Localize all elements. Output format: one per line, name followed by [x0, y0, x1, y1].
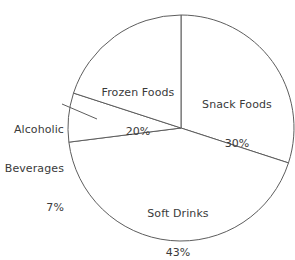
pie-label-soft-drinks-name: Soft Drinks — [137, 207, 219, 220]
pie-label-frozen-foods-name: Frozen Foods — [98, 86, 178, 99]
pie-label-frozen-foods: Frozen Foods 20% — [98, 60, 178, 164]
pie-label-soft-drinks-value: 43% — [137, 246, 219, 259]
pie-label-snack-foods: Snack Foods 30% — [196, 72, 278, 176]
pie-label-snack-foods-value: 30% — [196, 137, 278, 150]
pie-label-snack-foods-name: Snack Foods — [196, 98, 278, 111]
pie-label-alcoholic-beverages: Alcoholic Beverages 7% — [0, 97, 64, 240]
pie-label-alcoholic-beverages-name-line2: Beverages — [0, 162, 64, 175]
pie-label-alcoholic-beverages-value: 7% — [0, 201, 64, 214]
pie-label-soft-drinks: Soft Drinks 43% — [137, 181, 219, 260]
pie-label-alcoholic-beverages-name-line1: Alcoholic — [0, 123, 64, 136]
pie-label-frozen-foods-value: 20% — [98, 125, 178, 138]
